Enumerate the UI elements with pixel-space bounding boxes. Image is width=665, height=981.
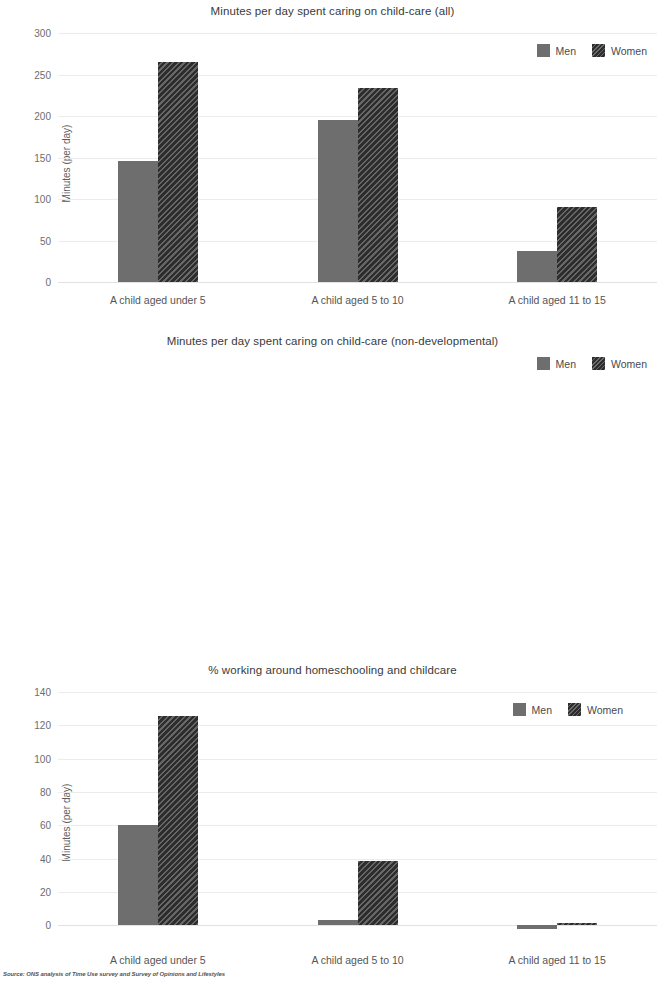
legend-label-men: Men	[556, 358, 576, 370]
chart-title-nondevelopmental: Minutes per day spent caring on child-ca…	[0, 335, 665, 347]
y-axis-tick-label: 250	[34, 69, 51, 80]
chart-title-all: Minutes per day spent caring on child-ca…	[0, 5, 665, 17]
chart-panel-all: Minutes per day spent caring on child-ca…	[0, 0, 665, 330]
y-axis-tick-label: 50	[40, 235, 51, 246]
category-label: A child aged 5 to 10	[311, 294, 403, 306]
legend-swatch-women-icon	[568, 703, 581, 716]
legend-swatch-men-icon	[513, 703, 526, 716]
legend-swatch-women-icon	[592, 357, 605, 370]
chart-legend-working: Men Women	[513, 703, 623, 716]
category-label: A child aged under 5	[110, 294, 206, 306]
source-note: Source: ONS analysis of Time Use survey …	[3, 971, 225, 977]
gridline	[58, 33, 657, 34]
gridline	[58, 282, 657, 283]
bar-men	[318, 120, 358, 282]
gridline	[58, 75, 657, 76]
chart-legend-nondevelopmental: Men Women	[537, 357, 647, 370]
chart-title-working: % working around homeschooling and child…	[0, 664, 665, 676]
legend-item-men[interactable]: Men	[513, 703, 552, 716]
category-label: A child aged 11 to 15	[509, 294, 606, 306]
legend-item-women[interactable]: Women	[568, 703, 623, 716]
y-axis-tick-label: 300	[34, 28, 51, 39]
bar-women	[557, 207, 597, 282]
legend-label-women: Women	[611, 358, 647, 370]
bar-men	[517, 251, 557, 282]
legend-item-women[interactable]: Women	[592, 357, 647, 370]
legend-label-men: Men	[532, 704, 552, 716]
bar-men	[118, 161, 158, 282]
bar-women	[158, 62, 198, 282]
y-axis-tick-label: 200	[34, 111, 51, 122]
plot-area-all: Minutes (per day) 050100150200250300A ch…	[58, 33, 657, 282]
legend-item-men[interactable]: Men	[537, 357, 576, 370]
bar-women	[358, 88, 398, 282]
legend-label-women: Women	[587, 704, 623, 716]
y-axis-tick-label: 150	[34, 152, 51, 163]
chart-panel-nondevelopmental: Minutes per day spent caring on child-ca…	[0, 330, 665, 650]
chart-panel-working: % working around homeschooling and child…	[0, 650, 665, 981]
y-axis-title-all: Minutes (per day)	[61, 124, 72, 202]
y-axis-tick-label: 0	[45, 277, 51, 288]
legend-swatch-men-icon	[537, 357, 550, 370]
y-axis-tick-label: 100	[34, 194, 51, 205]
